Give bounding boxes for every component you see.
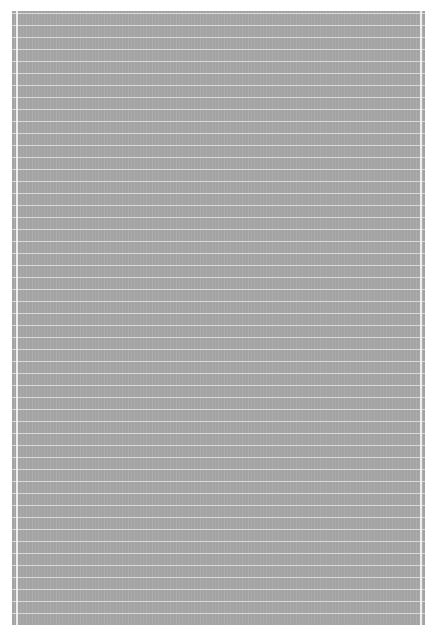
right-margin-line <box>420 11 422 625</box>
left-margin-line <box>16 11 18 625</box>
ruled-sheet <box>12 11 425 625</box>
